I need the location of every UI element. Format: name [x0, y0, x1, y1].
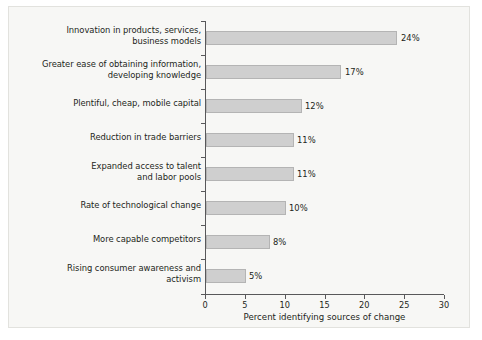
bar	[206, 269, 246, 283]
bar-value-label: 12%	[305, 100, 324, 112]
category-label: Expanded access to talent and labor pool…	[11, 161, 201, 182]
bar-value-label: 17%	[345, 66, 364, 78]
x-axis-tick-label: 25	[399, 300, 409, 310]
category-label: Greater ease of obtaining information, d…	[11, 59, 201, 80]
category-label: Innovation in products, services, busine…	[11, 25, 201, 46]
chart-panel: Innovation in products, services, busine…	[8, 6, 470, 328]
bar-row: 17%	[206, 55, 471, 89]
category-label: Rising consumer awareness and activism	[11, 263, 201, 284]
bar	[206, 65, 341, 79]
bar	[206, 167, 294, 181]
x-axis-title: Percent identifying sources of change	[205, 312, 444, 322]
x-axis-tick	[325, 295, 326, 299]
bar	[206, 235, 270, 249]
x-axis-tick	[404, 295, 405, 299]
x-axis-tick-label: 30	[439, 300, 449, 310]
x-axis-tick	[285, 295, 286, 299]
x-axis-tick	[245, 295, 246, 299]
x-axis-tick-label: 15	[319, 300, 329, 310]
bar-value-label: 5%	[249, 270, 262, 282]
x-axis-tick-label: 10	[279, 300, 289, 310]
category-label: Rate of technological change	[11, 200, 201, 211]
x-axis-tick-label: 0	[202, 300, 207, 310]
category-label: Plentiful, cheap, mobile capital	[11, 98, 201, 109]
bar	[206, 99, 302, 113]
category-label: Reduction in trade barriers	[11, 132, 201, 143]
bar-row: 5%	[206, 259, 471, 293]
x-axis-tick	[444, 295, 445, 299]
bar-series: 24% 17% 12% 11% 11% 10%	[206, 21, 471, 295]
x-axis-tick-label: 5	[242, 300, 247, 310]
bar	[206, 31, 397, 45]
bar-value-label: 10%	[289, 202, 308, 214]
plot-area: Innovation in products, services, busine…	[9, 7, 471, 329]
bar-value-label: 11%	[297, 134, 316, 146]
bar-row: 10%	[206, 191, 471, 225]
x-axis-tick	[364, 295, 365, 299]
bar-row: 11%	[206, 123, 471, 157]
bar-row: 12%	[206, 89, 471, 123]
bar-value-label: 24%	[401, 32, 420, 44]
category-label: More capable competitors	[11, 234, 201, 245]
bar	[206, 201, 286, 215]
bar-value-label: 8%	[273, 236, 286, 248]
bar-row: 11%	[206, 157, 471, 191]
category-axis-labels: Innovation in products, services, busine…	[9, 21, 201, 301]
bar-value-label: 11%	[297, 168, 316, 180]
x-axis-tick-label: 20	[359, 300, 369, 310]
bar-row: 8%	[206, 225, 471, 259]
x-axis-tick	[205, 295, 206, 299]
bar-row: 24%	[206, 21, 471, 55]
bar	[206, 133, 294, 147]
